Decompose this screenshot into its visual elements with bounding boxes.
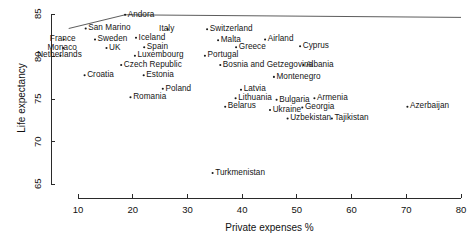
point-label: Turkmenistan	[215, 169, 265, 177]
x-tick-20: 20	[127, 205, 138, 215]
y-axis-title: Life expectancy	[17, 48, 27, 148]
point-label: Montenegro	[276, 73, 320, 81]
point-label: Estonia	[146, 71, 174, 79]
point-label: Georgia	[305, 103, 334, 111]
y-tick-75: 75	[33, 90, 43, 108]
point-label: Andora	[128, 11, 155, 19]
point-label: Poland	[165, 85, 191, 93]
point-label: San Marino	[88, 24, 130, 32]
point-label: Czech Republic	[124, 61, 182, 69]
x-tick-60: 60	[346, 205, 357, 215]
point-label: Belarus	[228, 102, 256, 110]
point-label: Armenia	[317, 94, 348, 102]
x-tick-70: 70	[401, 205, 412, 215]
point-label: Switzerland	[210, 25, 253, 33]
x-tick-40: 40	[237, 205, 248, 215]
scatter-chart: 1020304050607080 6570758085 San MarinoAn…	[0, 0, 473, 252]
x-tick-10: 10	[73, 205, 84, 215]
y-tick-70: 70	[33, 132, 43, 150]
x-tick-80: 80	[456, 205, 467, 215]
point-label: Croatia	[87, 71, 114, 79]
point-label: UK	[109, 44, 120, 52]
y-tick-85: 85	[33, 5, 43, 23]
point-label: Airland	[268, 35, 294, 43]
y-tick-65: 65	[33, 175, 43, 193]
point-label: Albania	[306, 61, 334, 69]
point-label: Azerbaijan	[410, 102, 449, 110]
point-label: Italy	[159, 25, 174, 33]
point-label: Tajikistan	[334, 114, 368, 122]
point-label: Netherlands	[37, 51, 82, 59]
point-label: Uzbekistan	[290, 114, 331, 122]
point-label: Luxembourg	[138, 51, 184, 59]
point-label: Romania	[133, 93, 166, 101]
x-tick-50: 50	[292, 205, 303, 215]
x-axis-title: Private expenses %	[225, 223, 313, 233]
point-label: Greece	[239, 43, 266, 51]
x-tick-30: 30	[182, 205, 193, 215]
point-label: Iceland	[139, 34, 166, 42]
point-label: Bosnia and Getzegovina	[223, 61, 313, 69]
point-label: Cyprus	[303, 42, 329, 50]
point-label: Portugal	[208, 51, 239, 59]
